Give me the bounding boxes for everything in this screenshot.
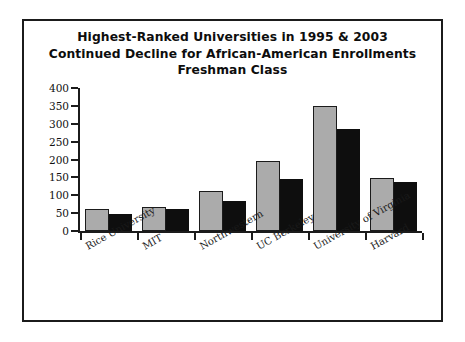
y-tick-mark: [71, 141, 78, 143]
bar-2003-mit: [166, 209, 190, 231]
y-tick-label: 200: [49, 154, 69, 165]
chart-figure: Highest-Ranked Universities in 1995 & 20…: [22, 19, 443, 322]
bar-1995-northwestern: [199, 191, 223, 231]
y-tick-label: 350: [49, 101, 69, 112]
y-tick-mark: [71, 212, 78, 214]
y-tick-mark: [71, 194, 78, 196]
x-tick-mark: [365, 233, 367, 240]
y-tick-mark: [71, 87, 78, 89]
y-tick-label: 250: [49, 136, 69, 147]
x-tick-mark: [422, 233, 424, 240]
y-tick-label: 150: [49, 172, 69, 183]
y-tick-mark: [71, 230, 78, 232]
bar-group: [199, 88, 246, 231]
bar-1995-uc-berkeley: [256, 161, 280, 231]
y-tick-label: 100: [49, 190, 69, 201]
title-line-2: Continued Decline for African-American E…: [24, 46, 441, 63]
y-tick-mark: [71, 159, 78, 161]
y-tick-mark: [71, 176, 78, 178]
title-line-1: Highest-Ranked Universities in 1995 & 20…: [24, 29, 441, 46]
x-tick-mark: [251, 233, 253, 240]
y-tick-mark: [71, 123, 78, 125]
bar-group: [313, 88, 360, 231]
x-tick-mark: [194, 233, 196, 240]
y-tick-label: 0: [62, 226, 69, 237]
x-axis-line: [78, 231, 422, 233]
bar-group: [85, 88, 132, 231]
y-tick-label: 400: [49, 83, 69, 94]
chart-title: Highest-Ranked Universities in 1995 & 20…: [24, 29, 441, 79]
x-category-label: MIT: [141, 233, 164, 252]
title-line-3: Freshman Class: [24, 62, 441, 79]
y-tick-mark: [71, 105, 78, 107]
bar-group: [256, 88, 303, 231]
bar-1995-university-of-virginia: [313, 106, 337, 231]
x-tick-mark: [308, 233, 310, 240]
x-tick-mark: [80, 233, 82, 240]
y-tick-label: 300: [49, 119, 69, 130]
bar-1995-rice-university: [85, 209, 109, 231]
x-tick-mark: [137, 233, 139, 240]
y-tick-label: 50: [56, 208, 69, 219]
y-axis-line: [78, 88, 80, 231]
